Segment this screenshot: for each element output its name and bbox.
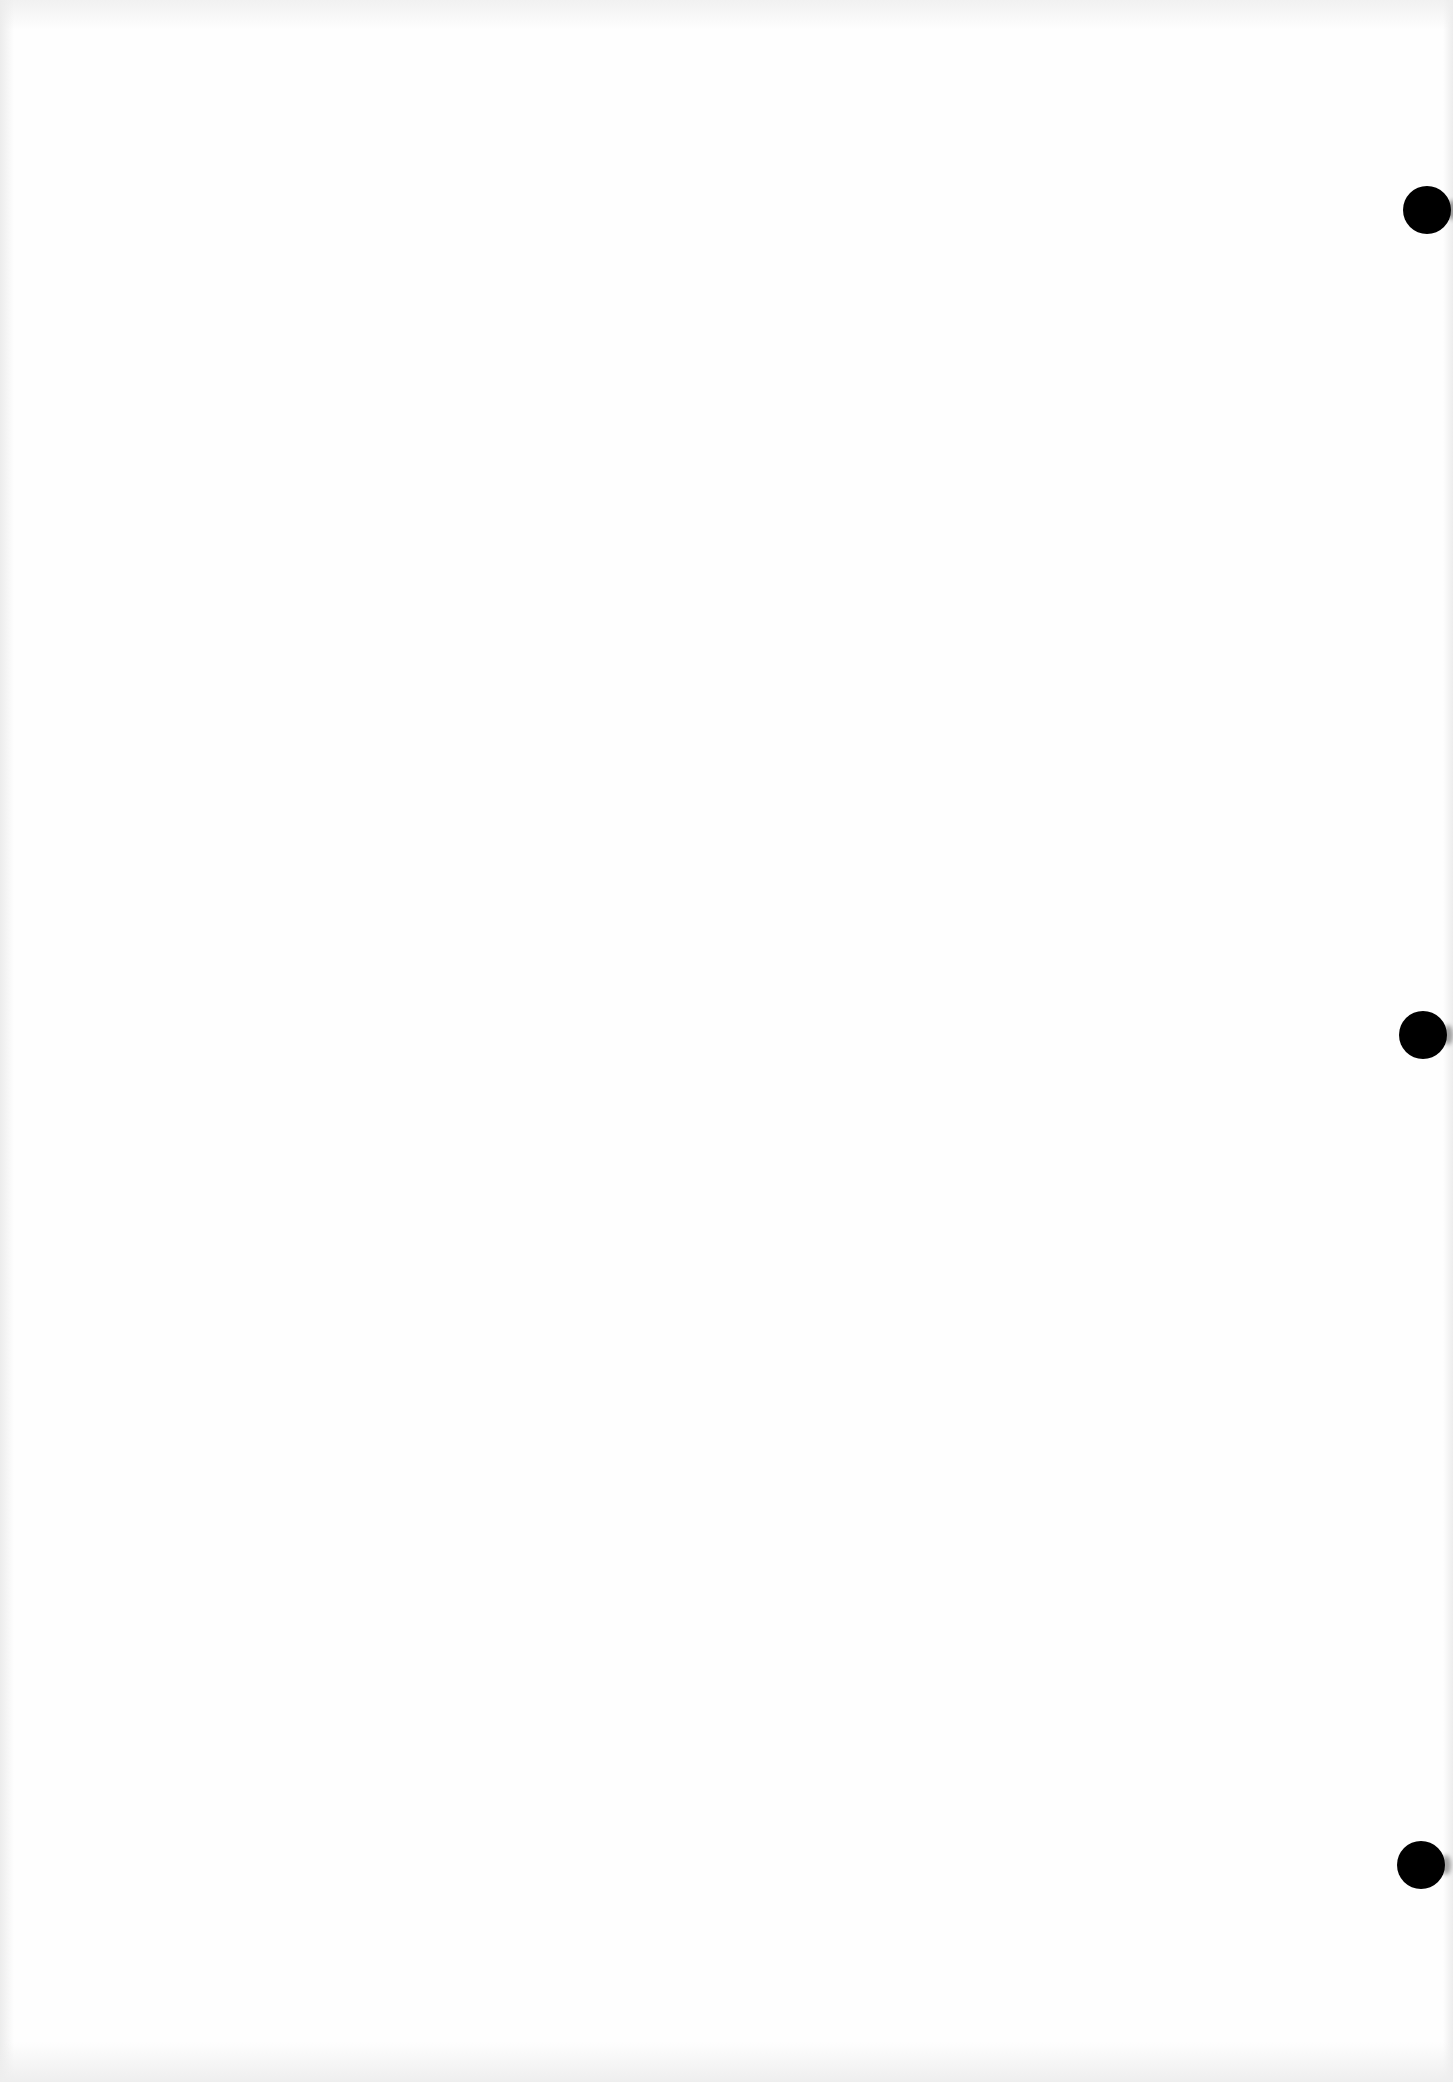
scan-shading-bottom [0, 2042, 1453, 2082]
blank-page [0, 0, 1453, 2082]
punch-hole-bottom [1397, 1841, 1445, 1889]
punch-hole-middle [1399, 1011, 1447, 1059]
punch-hole-top [1403, 186, 1451, 234]
scan-shading-top [0, 0, 1453, 30]
scan-shading-left [0, 0, 14, 2082]
